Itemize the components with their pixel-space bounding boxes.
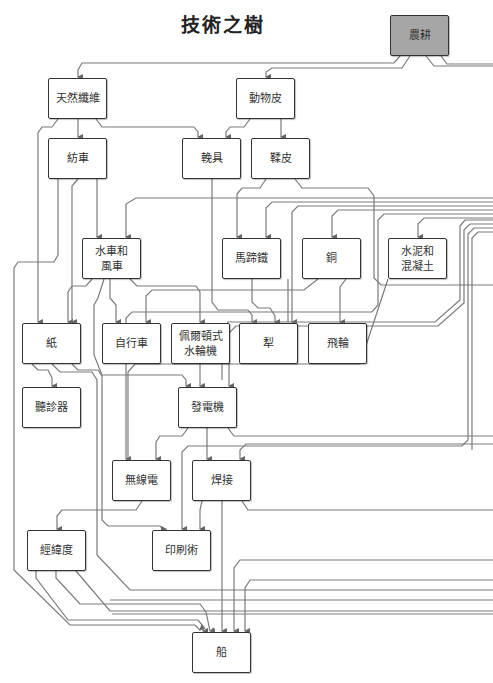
node-tanning[interactable]: 鞣皮 (251, 138, 310, 179)
node-label: 銅 (326, 251, 337, 266)
node-label: 船 (216, 645, 227, 660)
node-label: 自行車 (115, 336, 148, 351)
node-pelton-turbine[interactable]: 佩爾頓式水輪機 (171, 323, 230, 364)
node-label: 聽診器 (35, 400, 68, 415)
node-label: 飛輪 (327, 336, 349, 351)
node-label: 發電機 (191, 400, 224, 415)
node-label: 天然纖維 (56, 91, 100, 106)
node-label: 水泥和混凝土 (401, 244, 434, 274)
node-harness[interactable]: 輓具 (182, 138, 241, 179)
node-bicycle[interactable]: 自行車 (102, 323, 161, 364)
node-paper[interactable]: 紙 (22, 323, 81, 364)
node-label: 焊接 (211, 473, 233, 488)
node-label: 水車和風車 (95, 244, 128, 274)
node-label: 紙 (46, 336, 57, 351)
node-agriculture[interactable]: 農耕 (390, 15, 449, 56)
node-label: 鞣皮 (270, 151, 292, 166)
node-latitude-longitude[interactable]: 經緯度 (27, 530, 86, 571)
node-ship[interactable]: 船 (192, 632, 251, 673)
node-label: 無線電 (125, 473, 158, 488)
node-natural-fiber[interactable]: 天然纖維 (48, 78, 107, 119)
node-label: 紡車 (67, 151, 89, 166)
node-label: 佩爾頓式水輪機 (179, 329, 223, 359)
node-label: 馬蹄鐵 (235, 251, 268, 266)
node-plough[interactable]: 犁 (239, 323, 298, 364)
node-horseshoe[interactable]: 馬蹄鐵 (222, 238, 281, 279)
node-generator[interactable]: 發電機 (178, 387, 237, 428)
node-label: 動物皮 (249, 91, 282, 106)
node-flywheel[interactable]: 飛輪 (308, 323, 367, 364)
node-spinning-wheel[interactable]: 紡車 (48, 138, 107, 179)
node-cement-concrete[interactable]: 水泥和混凝土 (388, 238, 447, 279)
node-label: 輓具 (201, 151, 223, 166)
node-animal-hide[interactable]: 動物皮 (236, 78, 295, 119)
node-stethoscope[interactable]: 聽診器 (22, 387, 81, 428)
node-radio[interactable]: 無線電 (112, 460, 171, 501)
node-label: 犁 (263, 336, 274, 351)
node-welding[interactable]: 焊接 (192, 460, 251, 501)
node-label: 農耕 (409, 28, 431, 43)
node-copper[interactable]: 銅 (302, 238, 361, 279)
node-label: 印刷術 (165, 543, 198, 558)
node-label: 經緯度 (40, 543, 73, 558)
node-printing[interactable]: 印刷術 (152, 530, 211, 571)
node-watermill-windmill[interactable]: 水車和風車 (82, 238, 141, 279)
